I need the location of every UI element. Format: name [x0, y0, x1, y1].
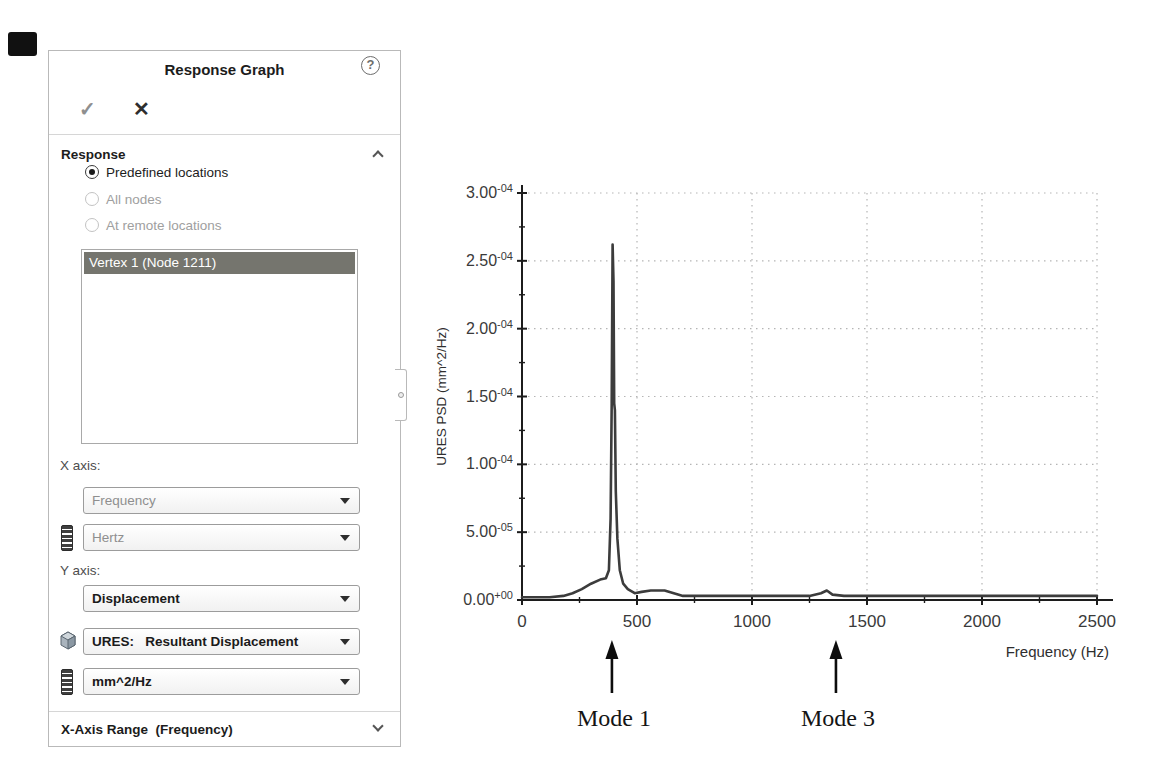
screenshot-root: Response Graph ? ✓ ✕ Response Predefined…: [0, 0, 1170, 777]
svg-text:2500: 2500: [1078, 612, 1116, 631]
y-axis-component-select[interactable]: URES: Resultant Displacement: [83, 628, 360, 655]
gridlines: [522, 193, 1097, 600]
svg-text:1.50-04: 1.50-04: [466, 386, 513, 405]
mode-annotations: Mode 1Mode 3: [577, 640, 875, 731]
selected-value: Hertz: [84, 530, 340, 545]
panel-flyout-handle[interactable]: [395, 369, 407, 421]
response-section-header: Response: [61, 147, 126, 162]
panel-title: Response Graph: [164, 61, 284, 78]
help-icon[interactable]: ?: [361, 56, 380, 75]
response-graph-panel: Response Graph ? ✓ ✕ Response Predefined…: [48, 50, 401, 747]
radio-label: Predefined locations: [106, 165, 228, 180]
svg-text:1.00-04: 1.00-04: [466, 453, 513, 472]
radio-all-nodes[interactable]: All nodes: [85, 189, 162, 209]
svg-text:2.00-04: 2.00-04: [466, 318, 513, 337]
list-item-vertex-1[interactable]: Vertex 1 (Node 1211): [84, 252, 355, 274]
chevron-down-icon: [340, 535, 350, 541]
predefined-locations-list[interactable]: Vertex 1 (Node 1211): [81, 249, 358, 444]
svg-text:1500: 1500: [848, 612, 886, 631]
radio-unselected-icon: [85, 192, 99, 206]
window-artifact: [8, 32, 37, 56]
radio-label: All nodes: [106, 192, 162, 207]
psd-frequency-plot: 0.00+005.00-051.00-041.50-042.00-042.50-…: [430, 150, 1170, 777]
chevron-down-icon: [340, 679, 350, 685]
svg-text:2000: 2000: [963, 612, 1001, 631]
svg-text:500: 500: [623, 612, 651, 631]
grip-dot-icon: [398, 392, 404, 398]
ok-button[interactable]: ✓: [79, 97, 96, 121]
chevron-down-icon[interactable]: [372, 720, 383, 731]
svg-text:3.00-04: 3.00-04: [466, 182, 513, 201]
mode-label: Mode 1: [577, 705, 651, 731]
x-axis-label: X axis:: [60, 458, 101, 473]
radio-predefined-locations[interactable]: Predefined locations: [85, 162, 228, 182]
panel-header: Response Graph: [49, 57, 400, 83]
mode-label: Mode 3: [801, 705, 875, 731]
selected-value: Frequency: [84, 493, 340, 508]
x-axis-quantity-select[interactable]: Frequency: [83, 487, 360, 514]
units-ruler-icon: [61, 525, 73, 551]
tick-labels: 0.00+005.00-051.00-041.50-042.00-042.50-…: [434, 182, 1116, 660]
radio-label: At remote locations: [106, 218, 222, 233]
radio-unselected-icon: [85, 218, 99, 232]
chevron-down-icon: [340, 498, 350, 504]
y-axis-units-select[interactable]: mm^2/Hz: [83, 668, 360, 695]
response-chart: 0.00+005.00-051.00-041.50-042.00-042.50-…: [430, 150, 1170, 777]
cancel-button[interactable]: ✕: [133, 97, 150, 121]
chevron-up-icon[interactable]: [372, 150, 383, 161]
radio-at-remote-locations[interactable]: At remote locations: [85, 215, 222, 235]
y-axis-title: URES PSD (mm^2/Hz): [434, 327, 449, 465]
svg-text:5.00-05: 5.00-05: [466, 521, 513, 540]
chevron-down-icon: [340, 596, 350, 602]
selected-value: Displacement: [84, 591, 340, 606]
psd-curve: [522, 245, 1097, 598]
y-axis-quantity-select[interactable]: Displacement: [83, 585, 360, 612]
selected-value: URES: Resultant Displacement: [84, 634, 340, 649]
axes: [517, 185, 1113, 605]
divider: [49, 134, 400, 135]
y-axis-label: Y axis:: [60, 563, 100, 578]
svg-text:1000: 1000: [733, 612, 771, 631]
svg-text:2.50-04: 2.50-04: [466, 250, 513, 269]
radio-selected-icon: [85, 165, 99, 179]
x-axis-title: Frequency (Hz): [1006, 643, 1109, 660]
x-axis-range-section-header: X-Axis Range (Frequency): [61, 722, 233, 737]
units-ruler-icon: [61, 669, 73, 695]
svg-text:0: 0: [517, 612, 526, 631]
x-axis-units-select[interactable]: Hertz: [83, 524, 360, 551]
chevron-down-icon: [340, 639, 350, 645]
displacement-component-icon: [58, 630, 78, 652]
svg-text:0.00+00: 0.00+00: [463, 589, 513, 608]
divider: [49, 711, 400, 712]
selected-value: mm^2/Hz: [84, 674, 340, 689]
